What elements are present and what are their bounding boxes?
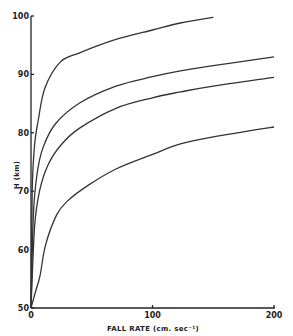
x-tick-label: 0 <box>28 311 34 320</box>
x-tick-label: 100 <box>144 311 161 320</box>
y-tick-label: 100 <box>12 12 29 21</box>
series-line-curve-4 <box>31 127 274 308</box>
y-axis-title: H (km) <box>13 161 21 189</box>
x-axis-title: FALL RATE (cm. sec⁻¹) <box>107 325 199 333</box>
x-axis: 0100200 <box>28 305 283 320</box>
x-tick-label: 200 <box>266 311 283 320</box>
y-tick-label: 80 <box>18 129 30 138</box>
y-tick-label: 90 <box>18 70 30 79</box>
chart: 5060708090100 0100200 FALL RATE (cm. sec… <box>0 0 293 336</box>
series-line-curve-1 <box>31 17 213 308</box>
series-line-curve-2 <box>31 57 274 308</box>
y-tick-label: 60 <box>18 246 30 255</box>
plot-area <box>31 17 274 308</box>
